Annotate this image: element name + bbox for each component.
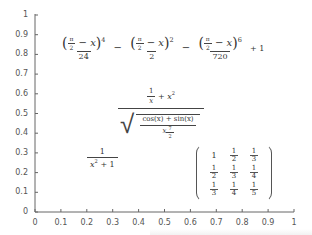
exponent-2: 2 <box>95 158 98 164</box>
cos-sin-text: cos(x) + sin(x) <box>136 115 200 124</box>
minus-operator: − <box>114 42 122 53</box>
exponent-2: 2 <box>172 90 175 96</box>
x-tick-label: 0.8 <box>232 218 252 228</box>
plus-x: + x <box>158 92 172 101</box>
two: 2 <box>68 43 76 51</box>
two: 2 <box>166 132 173 139</box>
reciprocal-annotation: 1 x2 + 1 <box>87 148 118 169</box>
sqrt-numerator: 1x + x2 <box>118 88 204 105</box>
right-paren <box>263 144 272 202</box>
matrix-cell: 14 <box>224 182 244 197</box>
exponent-6: 6 <box>238 36 242 44</box>
minus-x: − x <box>79 37 96 48</box>
y-tick-label: 1 <box>4 10 28 20</box>
x-tick-label: 0.7 <box>206 218 226 228</box>
exponent-4: 4 <box>101 36 105 44</box>
pi-symbol: π <box>204 36 212 43</box>
pi-symbol: π <box>136 36 144 43</box>
y-tick-label: 0.6 <box>4 89 28 99</box>
minus-x: − x <box>147 37 164 48</box>
two: 2 <box>204 43 212 51</box>
sqrt-expression-annotation: 1x + x2 √ cos(x) + sin(x) x72 <box>118 88 204 143</box>
one: 1 <box>147 88 155 96</box>
matrix-cell: 13 <box>244 148 264 163</box>
sqrt-icon: √ <box>120 109 134 139</box>
x-tick-label: 0.4 <box>129 218 149 228</box>
y-tick-label: 0.1 <box>4 187 28 197</box>
y-tick-label: 0 <box>4 207 28 217</box>
y-tick-label: 0.8 <box>4 49 28 59</box>
y-tick-label: 0.4 <box>4 128 28 138</box>
x-tick-label: 0.9 <box>258 218 278 228</box>
matrix-cell: 12 <box>224 148 244 163</box>
y-tick-label: 0.9 <box>4 30 28 40</box>
matrix-cell: 13 <box>224 165 244 180</box>
minus-operator: − <box>182 42 190 53</box>
y-tick-label: 0.2 <box>4 168 28 178</box>
y-tick-label: 0.5 <box>4 109 28 119</box>
denominator-24: 24 <box>77 51 91 62</box>
sqrt-radicand: cos(x) + sin(x) x72 <box>136 114 200 139</box>
matrix-cell: 12 <box>204 165 224 180</box>
denominator-720: 720 <box>210 51 229 62</box>
taylor-term-1: (π2 − x)4 24 <box>60 36 107 62</box>
matrix-cell: 15 <box>244 182 264 197</box>
taylor-term-2: (π2 − x)2 2 <box>128 36 175 62</box>
x-power: x72 <box>140 125 196 139</box>
sqrt-denominator: √ cos(x) + sin(x) x72 <box>118 108 204 143</box>
matrix-cell: 13 <box>204 182 224 197</box>
x-tick-label: 1 <box>284 218 304 228</box>
x-tick-label: 0.5 <box>155 218 175 228</box>
pi-symbol: π <box>67 36 75 43</box>
exponent-2: 2 <box>169 36 173 44</box>
plus-one: + 1 <box>250 44 264 53</box>
minus-x: − x <box>215 37 232 48</box>
x-tick-label: 0.3 <box>103 218 123 228</box>
y-tick-label: 0.3 <box>4 148 28 158</box>
matrix-cell: 14 <box>244 165 264 180</box>
two: 2 <box>136 43 144 51</box>
x-tick-label: 0 <box>25 218 45 228</box>
plus-one: + 1 <box>100 159 114 168</box>
x-tick-label: 0.6 <box>180 218 200 228</box>
x-tick-label: 0.2 <box>77 218 97 228</box>
x-var: x <box>147 96 155 105</box>
hilbert-matrix-annotation: 11213121314131415 <box>196 144 272 202</box>
numerator-one: 1 <box>98 148 107 157</box>
denominator-2: 2 <box>147 51 156 62</box>
x-tick-label: 0.1 <box>51 218 71 228</box>
taylor-term-3: (π2 − x)6 720 <box>196 36 243 62</box>
taylor-series-annotation: (π2 − x)4 24 − (π2 − x)2 2 − (π2 − x)6 7… <box>60 36 264 62</box>
matrix-cell: 1 <box>204 151 224 160</box>
y-tick-label: 0.7 <box>4 69 28 79</box>
bottom-band <box>150 229 312 235</box>
